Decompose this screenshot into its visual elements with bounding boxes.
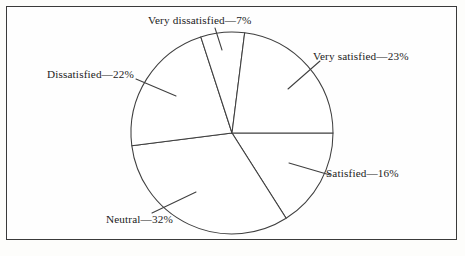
slice-label-dissatisfied: Dissatisfied—22%	[47, 68, 134, 80]
slice-label-very-dissatisfied: Very dissatisfied—7%	[148, 14, 251, 26]
slice-label-very-satisfied: Very satisfied—23%	[313, 50, 409, 62]
pie-wedge-group	[131, 32, 333, 234]
pie-chart-figure: Very dissatisfied—7% Very satisfied—23% …	[0, 0, 465, 256]
slice-label-satisfied: Satisfied—16%	[326, 167, 399, 179]
pie-chart-canvas	[0, 0, 465, 256]
slice-label-neutral: Neutral—32%	[106, 213, 173, 225]
pie-slice-very-satisfied	[232, 33, 333, 133]
